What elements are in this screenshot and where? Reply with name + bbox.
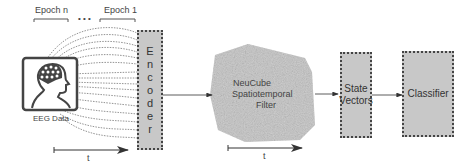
- encoder-letter: d: [147, 97, 153, 110]
- epoch-1-bracket: [100, 19, 135, 22]
- encoder-letter: E: [146, 45, 153, 58]
- encoder-letter: r: [148, 123, 152, 136]
- neucube-subtitle: Spatiotemporal: [232, 89, 293, 99]
- time-label-cube: t: [263, 151, 266, 161]
- encoder-letter: e: [147, 110, 153, 123]
- time-label-input: t: [87, 153, 90, 163]
- neucube-filter-label: Filter: [256, 100, 276, 110]
- encoder-box: E n c o d e r: [137, 30, 163, 150]
- epoch-1-label: Epoch 1: [104, 5, 137, 15]
- time-axis-input: [54, 147, 128, 153]
- epoch-n-bracket: [34, 19, 68, 22]
- classifier-label: Classifier: [404, 53, 452, 135]
- state-vectors-box: State Vectors: [340, 52, 372, 138]
- eeg-head-icon: [23, 58, 77, 110]
- neucube-title: NeuCube: [233, 78, 271, 88]
- epoch-ellipsis: • • •: [78, 14, 91, 23]
- encoder-letter: n: [147, 58, 153, 71]
- epoch-n-label: Epoch n: [35, 5, 68, 15]
- state-vectors-line1: State: [339, 83, 372, 95]
- state-vectors-line2: Vectors: [339, 95, 372, 107]
- eeg-data-label: EEG Data: [33, 114, 69, 123]
- encoder-letter: c: [147, 71, 153, 84]
- classifier-box: Classifier: [402, 51, 454, 137]
- encoder-letter: o: [147, 84, 153, 97]
